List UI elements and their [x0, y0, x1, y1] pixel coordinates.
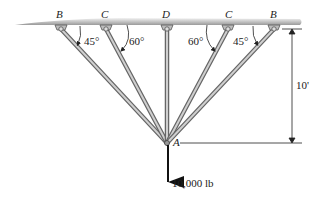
label-A: A: [172, 136, 180, 148]
label-B-right: B: [270, 8, 277, 20]
truss-diagram: B C D C B 45° 60° 60° 45° 10' A 10,000 l…: [0, 0, 320, 199]
angle-label-45-right: 45°: [233, 35, 248, 47]
label-B-left: B: [56, 8, 63, 20]
angle-label-60-left: 60°: [129, 35, 144, 47]
angle-label-45-left: 45°: [84, 35, 99, 47]
label-C-left: C: [101, 8, 109, 20]
dimension-label: 10': [296, 79, 309, 91]
load-label: 10,000 lb: [172, 177, 214, 189]
joint-A: [165, 141, 170, 146]
label-D: D: [161, 8, 170, 20]
label-C-right: C: [225, 8, 233, 20]
angle-label-60-right: 60°: [188, 35, 203, 47]
support-brackets: [55, 25, 280, 31]
